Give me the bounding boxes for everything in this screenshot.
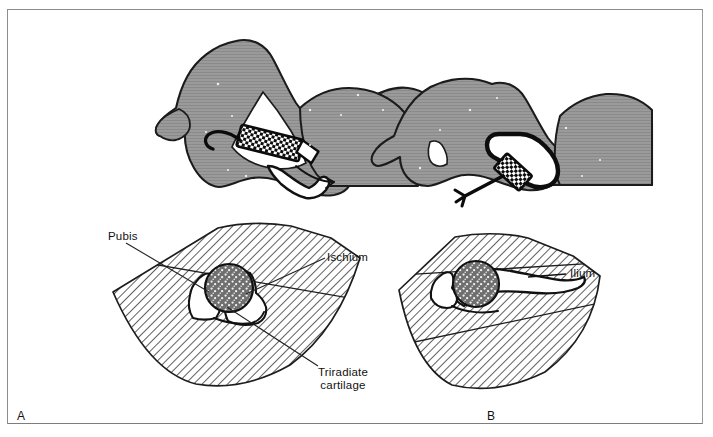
infant-trunk-block-b bbox=[555, 94, 652, 185]
femoral-head-b bbox=[453, 261, 499, 307]
label-triradiate-line1: Triradiate bbox=[318, 366, 368, 378]
label-triradiate-cartilage: Triradiate cartilage bbox=[300, 366, 386, 392]
probe-cable-fork-b bbox=[455, 190, 465, 206]
ultrasound-sector-b bbox=[386, 234, 614, 389]
probe-cable-b bbox=[465, 176, 503, 196]
label-ischium: Ischium bbox=[327, 251, 368, 264]
figure-root: Pubis Ischium Triradiate cartilage Ilium… bbox=[0, 0, 713, 437]
femoral-head-a bbox=[205, 264, 253, 312]
infant-foot-a bbox=[156, 109, 190, 140]
panel-letter-a: A bbox=[17, 409, 25, 423]
label-triradiate-line2: cartilage bbox=[320, 379, 365, 391]
sector-outline-b bbox=[399, 234, 600, 389]
label-ilium: Ilium bbox=[570, 267, 595, 280]
label-pubis: Pubis bbox=[108, 230, 138, 243]
panel-letter-b: B bbox=[487, 409, 495, 423]
